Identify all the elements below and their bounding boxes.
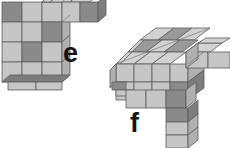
figure-label-f: f [130,110,139,137]
figure-canvas: .tl{fill:#d2d2d2} /* top light */ .td{fi… [0,0,230,148]
polycube-illustration: .tl{fill:#d2d2d2} /* top light */ .td{fi… [0,0,230,148]
shape-e-front-face [2,2,62,82]
shape-e-bottom [2,75,70,90]
figure-label-e: e [63,40,78,67]
shape-e [2,0,106,90]
shape-f [110,28,230,148]
